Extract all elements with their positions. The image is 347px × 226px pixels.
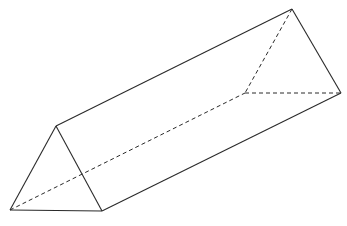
edge-DF (245, 9, 292, 93)
edge-CA (10, 126, 56, 210)
edge-DE (292, 9, 341, 93)
edge-AB (10, 210, 102, 211)
edge-CD (56, 9, 292, 126)
edge-BE (102, 93, 341, 211)
edge-BC (56, 126, 102, 211)
triangular-prism-diagram (0, 0, 347, 226)
edge-AF (10, 93, 245, 210)
